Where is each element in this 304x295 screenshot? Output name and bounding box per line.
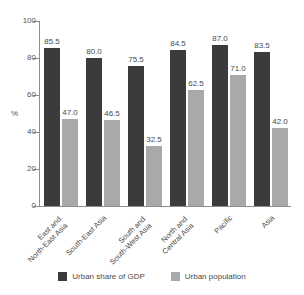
legend-swatch-icon-gdp — [58, 272, 67, 281]
bar-population[interactable] — [188, 90, 204, 206]
plot-area: 85.547.080.046.575.532.584.562.587.071.0… — [39, 21, 291, 206]
bar-population[interactable] — [230, 75, 246, 206]
y-tick-label-60: 60 — [27, 91, 36, 99]
legend-label-gdp: Urban share of GDP — [72, 272, 144, 281]
bar-gdp[interactable] — [254, 52, 270, 206]
bar-value-label: 75.5 — [122, 55, 150, 64]
bar-value-label: 84.5 — [164, 39, 192, 48]
bar-value-label: 71.0 — [224, 64, 252, 73]
y-tick-label-40: 40 — [27, 128, 36, 136]
legend-item-urban-share-of-gdp[interactable]: Urban share of GDP — [58, 272, 144, 281]
bar-group: 83.542.0 — [254, 21, 288, 206]
bar-group: 87.071.0 — [212, 21, 246, 206]
legend-label-population: Urban population — [185, 272, 246, 281]
y-tick-label-80: 80 — [27, 54, 36, 62]
bar-gdp[interactable] — [86, 58, 102, 206]
y-tick-label-100: 100 — [23, 17, 36, 25]
x-axis-line — [39, 206, 291, 207]
bar-value-label: 87.0 — [206, 34, 234, 43]
bar-group: 85.547.0 — [44, 21, 78, 206]
x-axis-category-label: Asia — [227, 213, 276, 262]
bar-value-label: 83.5 — [248, 41, 276, 50]
bar-population[interactable] — [272, 128, 288, 206]
x-axis-category-label: East andNorth-East Asia — [14, 215, 69, 270]
y-tick-label-20: 20 — [27, 165, 36, 173]
bar-population[interactable] — [146, 146, 162, 206]
x-axis-category-line: Asia — [227, 213, 276, 262]
bar-value-label: 47.0 — [56, 108, 84, 117]
bar-value-label: 32.5 — [140, 135, 168, 144]
bar-value-label: 85.5 — [38, 37, 66, 46]
legend-item-urban-population[interactable]: Urban population — [171, 272, 246, 281]
y-axis-title: % — [11, 109, 18, 118]
bar-value-label: 80.0 — [80, 47, 108, 56]
legend-swatch-icon-population — [171, 272, 180, 281]
bar-group: 84.562.5 — [170, 21, 204, 206]
bar-group: 80.046.5 — [86, 21, 120, 206]
bar-value-label: 62.5 — [182, 79, 210, 88]
chart-legend: Urban share of GDP Urban population — [0, 272, 304, 281]
bar-population[interactable] — [104, 120, 120, 206]
bar-group: 75.532.5 — [128, 21, 162, 206]
bar-population[interactable] — [62, 119, 78, 206]
bar-gdp[interactable] — [170, 50, 186, 206]
bar-value-label: 46.5 — [98, 109, 126, 118]
y-tick-label-0: 0 — [32, 202, 36, 210]
bar-chart: % 100 80 60 40 20 0 85.547.080.046.575.5… — [0, 0, 304, 295]
bar-value-label: 42.0 — [266, 117, 294, 126]
bar-gdp[interactable] — [44, 48, 60, 206]
